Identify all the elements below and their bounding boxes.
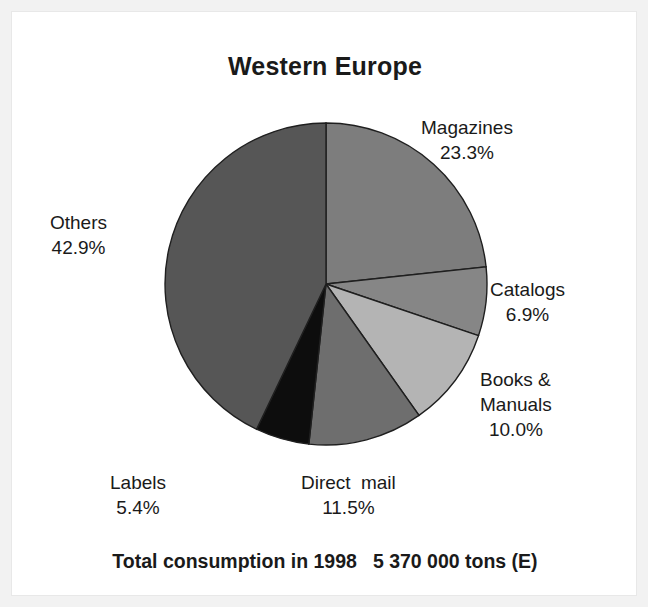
slice-label-labels-name: Labels bbox=[110, 472, 166, 493]
slice-label-direct-mail-word1: Direct bbox=[301, 472, 351, 493]
slice-label-magazines-value: 23.3% bbox=[421, 140, 513, 165]
slice-label-labels-value: 5.4% bbox=[110, 495, 166, 520]
slice-label-others-name: Others bbox=[50, 212, 107, 233]
slice-label-books-manuals-value: 10.0% bbox=[480, 417, 552, 442]
pie-slice-group bbox=[165, 123, 487, 445]
slice-label-others: Others 42.9% bbox=[50, 210, 107, 260]
slice-label-magazines-name: Magazines bbox=[421, 117, 513, 138]
slice-label-labels: Labels 5.4% bbox=[110, 470, 166, 520]
slice-label-books-manuals-line2: Manuals bbox=[480, 394, 552, 415]
slice-label-direct-mail: Direct mail 11.5% bbox=[301, 470, 396, 520]
total-consumption-caption: Total consumption in 19985 370 000 tons … bbox=[12, 550, 638, 573]
total-consumption-value: 5 370 000 tons (E) bbox=[373, 550, 538, 572]
chart-frame: Western Europe Magazines 23.3% Catalogs … bbox=[11, 11, 637, 596]
slice-label-books-manuals: Books & Manuals 10.0% bbox=[480, 367, 552, 442]
total-consumption-label: Total consumption in 1998 bbox=[112, 550, 357, 572]
slice-label-others-value: 42.9% bbox=[50, 235, 107, 260]
slice-label-catalogs-value: 6.9% bbox=[490, 302, 565, 327]
slice-label-catalogs: Catalogs 6.9% bbox=[490, 277, 565, 327]
slice-label-magazines: Magazines 23.3% bbox=[421, 115, 513, 165]
slice-label-direct-mail-name: Direct mail bbox=[301, 472, 396, 493]
slice-label-direct-mail-value: 11.5% bbox=[301, 495, 396, 520]
slice-label-catalogs-name: Catalogs bbox=[490, 279, 565, 300]
slice-label-books-manuals-line1: Books & bbox=[480, 369, 551, 390]
screenshot-root: Western Europe Magazines 23.3% Catalogs … bbox=[0, 0, 648, 607]
slice-label-direct-mail-word2: mail bbox=[361, 472, 396, 493]
